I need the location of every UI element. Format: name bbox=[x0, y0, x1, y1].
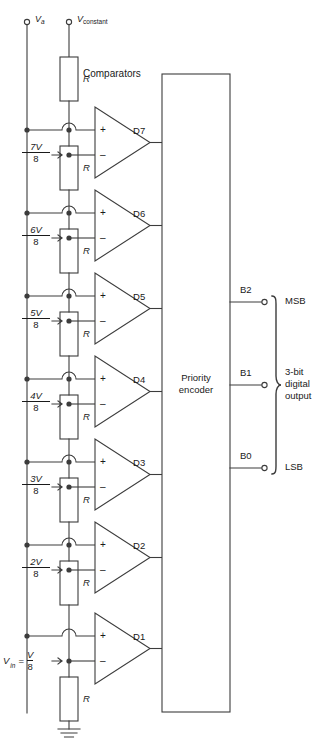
terminal-b2 bbox=[262, 299, 267, 304]
node-minus-2 bbox=[66, 567, 71, 572]
tap-label-6v8: 6V8 bbox=[22, 225, 50, 247]
terminal-vconstant bbox=[66, 19, 71, 24]
terminal-b0 bbox=[262, 465, 267, 470]
terminal-b1 bbox=[262, 382, 267, 387]
output-group-label: 3-bit digital output bbox=[285, 366, 311, 402]
comparator-2-minus: – bbox=[100, 565, 106, 575]
plus-wire-3 bbox=[27, 455, 95, 462]
comparator-4-minus: – bbox=[100, 399, 106, 409]
comparator-5-plus: + bbox=[100, 291, 106, 301]
priority-encoder-label: Priority encoder bbox=[166, 372, 226, 396]
output-label-b0: B0 bbox=[240, 450, 252, 461]
label-va: Va bbox=[35, 15, 45, 26]
output-brace bbox=[272, 296, 281, 474]
tap-label-2v8: 2V8 bbox=[22, 557, 50, 579]
comparator-3-plus: + bbox=[100, 457, 106, 467]
plus-wire-4 bbox=[27, 372, 95, 379]
resistor-label-8: R bbox=[83, 693, 90, 704]
comparator-output-d5: D5 bbox=[133, 291, 145, 302]
comparator-7 bbox=[95, 107, 150, 178]
comparator-2 bbox=[95, 522, 150, 593]
comparator-output-d2: D2 bbox=[133, 540, 145, 551]
comparator-output-d4: D4 bbox=[133, 374, 145, 385]
comparator-4-plus: + bbox=[100, 374, 106, 384]
resistor-label-3: R bbox=[83, 245, 90, 256]
resistor-label-1: R bbox=[83, 73, 90, 84]
resistor-8 bbox=[60, 677, 78, 721]
comparator-6-minus: – bbox=[100, 233, 106, 243]
comparator-1-minus: – bbox=[100, 656, 106, 666]
resistor-label-4: R bbox=[83, 328, 90, 339]
comparator-2-plus: + bbox=[100, 540, 106, 550]
plus-wire-7 bbox=[27, 123, 95, 130]
output-tag-lsb: LSB bbox=[285, 461, 303, 473]
comparator-1-plus: + bbox=[100, 631, 106, 641]
tap-label-5v8: 5V8 bbox=[22, 308, 50, 330]
resistor-label-5: R bbox=[83, 411, 90, 422]
label-comparators: Comparators bbox=[83, 69, 141, 79]
comparator-4 bbox=[95, 356, 150, 427]
comparator-output-d1: D1 bbox=[133, 631, 145, 642]
tap-arrow-1 bbox=[52, 658, 62, 664]
tap-label-4v8: 4V8 bbox=[22, 391, 50, 413]
terminal-va bbox=[24, 19, 29, 24]
comparator-1 bbox=[95, 613, 150, 684]
node-minus-5 bbox=[66, 318, 71, 323]
comparator-output-d6: D6 bbox=[133, 208, 145, 219]
flash-adc-circuit-diagram bbox=[0, 0, 325, 743]
node-minus-6 bbox=[66, 235, 71, 240]
output-label-b2: B2 bbox=[240, 284, 252, 295]
comparator-7-plus: + bbox=[100, 125, 106, 135]
node-minus-7 bbox=[66, 152, 71, 157]
comparator-3-minus: – bbox=[100, 482, 106, 492]
comparator-5 bbox=[95, 273, 150, 344]
ground-icon bbox=[58, 729, 80, 737]
tap-label-3v8: 3V8 bbox=[22, 474, 50, 496]
comparator-output-d7: D7 bbox=[133, 125, 145, 136]
resistor-label-2: R bbox=[83, 162, 90, 173]
comparator-3 bbox=[95, 439, 150, 510]
plus-wire-5 bbox=[27, 289, 95, 296]
resistor-label-6: R bbox=[83, 494, 90, 505]
tap-label-7v8: 7V8 bbox=[22, 142, 50, 164]
node-minus-3 bbox=[66, 484, 71, 489]
comparator-output-d3: D3 bbox=[133, 457, 145, 468]
resistor-label-7: R bbox=[83, 577, 90, 588]
comparator-6 bbox=[95, 190, 150, 261]
input-voltage-label: Vin = V 8 bbox=[3, 650, 33, 672]
resistor-1 bbox=[60, 57, 78, 101]
output-label-b1: B1 bbox=[240, 367, 252, 378]
plus-wire-2 bbox=[27, 538, 95, 545]
comparator-6-plus: + bbox=[100, 208, 106, 218]
comparator-7-minus: – bbox=[100, 150, 106, 160]
plus-wire-1 bbox=[27, 629, 95, 636]
label-vconstant: Vconstant bbox=[77, 15, 108, 26]
plus-wire-6 bbox=[27, 206, 95, 213]
output-tag-msb: MSB bbox=[285, 295, 306, 307]
comparator-5-minus: – bbox=[100, 316, 106, 326]
node-minus-4 bbox=[66, 401, 71, 406]
